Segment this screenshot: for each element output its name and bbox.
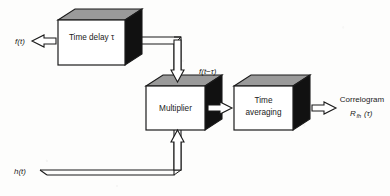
input-label-h: h(t) bbox=[14, 167, 26, 176]
output-symbol-argument: (τ) bbox=[364, 109, 373, 118]
block-time-delay[interactable]: Time delay τ bbox=[58, 9, 142, 65]
block-arrow-right-icon bbox=[32, 35, 56, 47]
output-label-correlogram: Correlogram bbox=[340, 95, 385, 104]
block-label-time-averaging-line2: averaging bbox=[246, 108, 282, 117]
output-symbol-correlation: R fh (τ) bbox=[350, 109, 373, 119]
output-symbol-main: R bbox=[350, 109, 356, 118]
input-label-f: f(t) bbox=[15, 37, 25, 46]
block-label-time-averaging-line1: Time bbox=[255, 96, 273, 105]
block-label-time-delay: Time delay τ bbox=[69, 33, 115, 42]
block-label-multiplier: Multiplier bbox=[159, 104, 192, 113]
block-arrow-up-icon bbox=[171, 130, 184, 170]
block-time-averaging[interactable]: Time averaging bbox=[234, 75, 310, 130]
correlator-block-diagram: Time delay τ Multiplier Time averaging f… bbox=[0, 0, 390, 196]
block-arrow-right-icon bbox=[312, 102, 336, 114]
block-multiplier[interactable]: Multiplier bbox=[146, 75, 222, 130]
connector-h-to-multiplier bbox=[40, 130, 181, 175]
diagram-canvas: Time delay τ Multiplier Time averaging f… bbox=[0, 0, 390, 196]
signal-label-delayed-f: f(t−τ) bbox=[199, 67, 217, 76]
block-front-face bbox=[58, 20, 125, 65]
output-symbol-subscript: fh bbox=[357, 113, 362, 119]
